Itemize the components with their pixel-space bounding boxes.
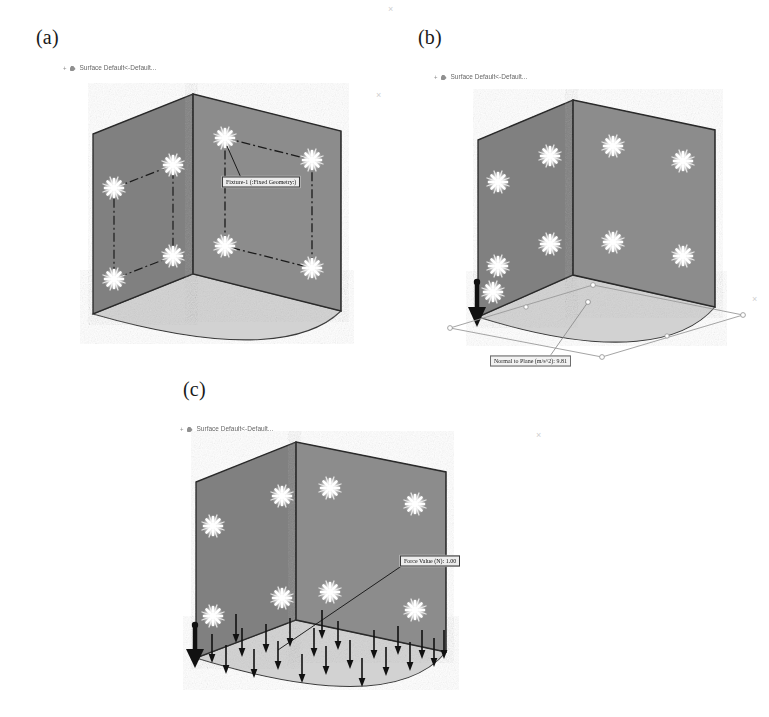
restraint-marker[interactable] <box>202 605 224 627</box>
panel-b: + Surface Default<-Default... <box>430 64 760 384</box>
panel-a: + Surface Default<-Default... <box>60 60 380 360</box>
restraint-marker[interactable] <box>404 599 426 621</box>
restraint-marker[interactable] <box>487 171 509 193</box>
force-callout-c[interactable]: Force Value (N): 1.00 <box>400 555 460 567</box>
restraint-marker[interactable] <box>602 231 624 253</box>
panel-letter-c: (c) <box>183 378 206 401</box>
restraint-marker[interactable] <box>482 281 504 303</box>
restraint-marker[interactable] <box>214 127 236 149</box>
restraint-marker[interactable] <box>301 257 323 279</box>
fixture-callout-a[interactable]: Fixture-1 (:Fixed Geometry:) <box>222 176 300 188</box>
cad-viewport-b[interactable] <box>430 64 760 384</box>
restraint-marker[interactable] <box>319 581 341 603</box>
restraint-marker[interactable] <box>162 154 184 176</box>
restraint-marker[interactable] <box>271 587 293 609</box>
restraint-marker[interactable] <box>214 235 236 257</box>
restraint-marker[interactable] <box>672 245 694 267</box>
model-face-front <box>193 94 341 311</box>
figure-root: × × × × (a) + Surface Default<-Default..… <box>0 0 769 717</box>
restraint-marker[interactable] <box>487 255 509 277</box>
panel-c: + Surface Default<-Default... <box>178 420 578 717</box>
restraint-marker[interactable] <box>301 149 323 171</box>
ghost-mark: × <box>388 4 393 14</box>
restraint-marker[interactable] <box>103 268 125 290</box>
panel-letter-a: (a) <box>36 26 59 49</box>
gravity-callout-b[interactable]: Normal to Plane (m/s^2): 9.81 <box>490 355 571 367</box>
cad-viewport-a[interactable] <box>60 60 380 360</box>
restraint-marker[interactable] <box>539 233 561 255</box>
restraint-marker[interactable] <box>162 245 184 267</box>
restraint-marker[interactable] <box>404 493 426 515</box>
restraint-marker[interactable] <box>271 485 293 507</box>
model-face-front <box>573 100 715 307</box>
restraint-marker[interactable] <box>319 477 341 499</box>
restraint-marker[interactable] <box>602 135 624 157</box>
cad-viewport-c[interactable] <box>178 420 578 717</box>
restraint-marker[interactable] <box>103 177 125 199</box>
restraint-marker[interactable] <box>672 150 694 172</box>
restraint-marker[interactable] <box>539 145 561 167</box>
leader-anchor-dot <box>586 300 591 305</box>
panel-letter-b: (b) <box>418 26 442 49</box>
model-face-front <box>296 442 446 652</box>
restraint-marker[interactable] <box>202 515 224 537</box>
